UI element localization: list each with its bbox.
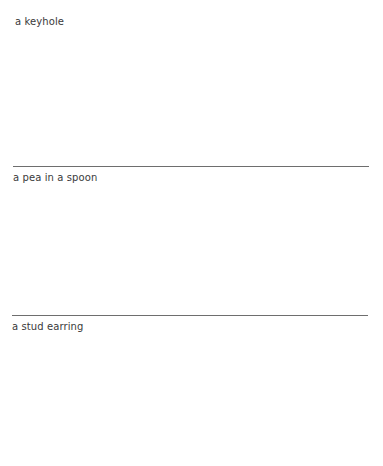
panel-label: a stud earring: [12, 321, 84, 332]
panel-label: a pea in a spoon: [13, 172, 97, 183]
divider: [13, 166, 369, 167]
panel-label: a keyhole: [15, 16, 64, 27]
divider: [12, 315, 368, 316]
